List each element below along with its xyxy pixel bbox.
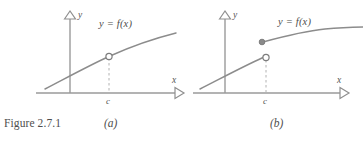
panel-a-letter: (a) xyxy=(104,118,117,130)
panel-b-y-axis-label: y xyxy=(233,11,237,21)
panel-a-y-axis-label: y xyxy=(78,11,82,21)
panel-a-y-axis-arrowhead xyxy=(65,11,76,19)
panel-b-curve-label: y = f(x) xyxy=(278,17,311,28)
panel-a-x-axis-label: x xyxy=(172,76,176,86)
panel-b-letter: (b) xyxy=(270,118,283,130)
panel-b-curve-left-branch xyxy=(200,58,263,90)
panel-b-x-axis-arrowhead xyxy=(340,88,349,99)
figure-caption: Figure 2.7.1 xyxy=(4,118,61,130)
panel-a-x-axis-arrowhead xyxy=(175,88,184,99)
panel-a-curve xyxy=(45,33,176,89)
panel-b-tick-label-c: c xyxy=(263,97,267,106)
panel-a-curve-label: y = f(x) xyxy=(99,19,132,30)
panel-b-y-axis-arrowhead xyxy=(220,11,231,19)
panel-a-open-circle-marker xyxy=(106,53,112,59)
panel-b-curve-right-branch xyxy=(263,27,363,42)
panel-a-tick-label-c: c xyxy=(106,97,110,106)
panel-b-open-circle-marker xyxy=(263,54,269,60)
panel-b-x-axis-label: x xyxy=(337,76,341,86)
panel-b-filled-dot-marker xyxy=(259,39,265,45)
figure-page: y x y = f(x) c (a) y x y = f(x) c (b) Fi… xyxy=(0,0,363,146)
